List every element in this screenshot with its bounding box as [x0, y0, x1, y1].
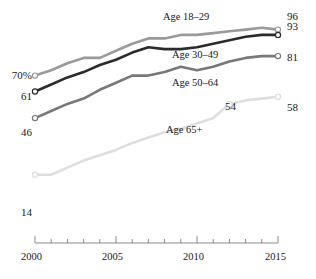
end-label-age-50-64: 81	[287, 52, 298, 63]
line-age-50-64	[35, 56, 278, 118]
marker-end-age-18-29	[275, 27, 280, 32]
start-label-age-30-49: 61	[2, 91, 32, 102]
series-label-age-65plus: Age 65+	[166, 125, 203, 136]
x-axis	[35, 236, 278, 243]
marker-start-age-18-29	[32, 73, 37, 78]
line-age-65plus	[35, 97, 278, 175]
start-label-age-18-29: 70%	[2, 70, 32, 81]
marker-end-age-30-49	[275, 32, 280, 37]
x-tick-label-2015: 2015	[265, 252, 286, 263]
annotation-label-54: 54	[225, 101, 236, 112]
start-label-age-65plus: 14	[2, 207, 32, 218]
chart-canvas	[0, 0, 316, 279]
marker-start-age-30-49	[32, 89, 37, 94]
series-label-age-50-64: Age 50–64	[172, 78, 218, 89]
series-label-age-18-29: Age 18–29	[163, 12, 209, 23]
x-tick-label-2005: 2005	[102, 252, 123, 263]
marker-end-age-50-64	[275, 54, 280, 59]
marker-start-age-65-	[32, 172, 37, 177]
start-label-age-50-64: 46	[2, 127, 32, 138]
series-lines	[35, 28, 278, 175]
marker-end-age-65-	[275, 94, 280, 99]
end-label-age-30-49: 93	[287, 21, 298, 32]
marker-start-age-50-64	[32, 116, 37, 121]
series-label-age-30-49: Age 30–49	[172, 50, 218, 61]
end-label-age-65plus: 58	[287, 102, 298, 113]
line-age-18-29	[35, 28, 278, 76]
x-tick-label-2010: 2010	[183, 252, 204, 263]
x-tick-label-2000: 2000	[21, 252, 42, 263]
line-chart: 70% 61 46 14 96 93 81 58 54 Age 18–29 Ag…	[0, 0, 316, 279]
